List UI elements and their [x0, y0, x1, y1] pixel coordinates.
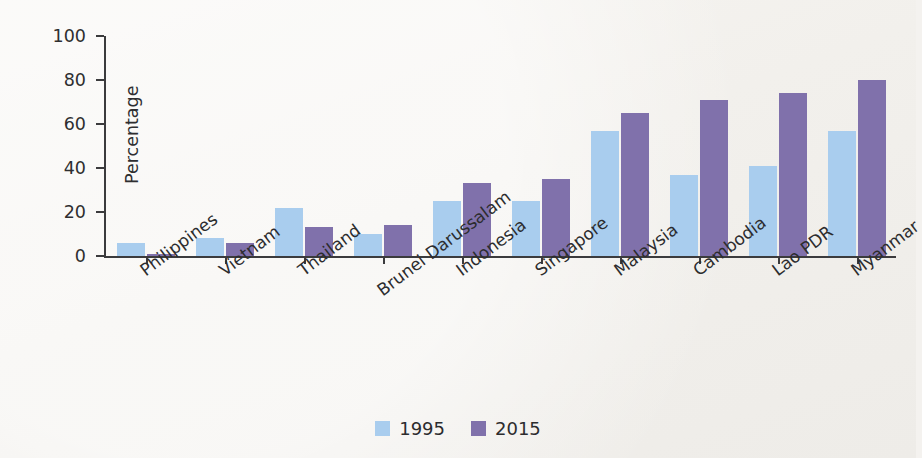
legend-item[interactable]: 1995 — [375, 418, 445, 439]
bar-group — [817, 36, 896, 256]
bar-group — [106, 36, 185, 256]
y-axis-tick-label: 60 — [64, 114, 86, 134]
y-axis-tick-label: 80 — [64, 70, 86, 90]
y-axis-tick — [96, 255, 104, 257]
x-axis-category-labels: PhilippinesVietnamThailandBrunei Darussa… — [104, 258, 916, 378]
y-axis-tick — [96, 123, 104, 125]
bar-2015 — [700, 100, 728, 256]
y-axis-tick-label: 100 — [53, 26, 86, 46]
legend-swatch-1995 — [375, 421, 390, 436]
legend-label: 2015 — [495, 418, 541, 439]
y-axis-tick — [96, 35, 104, 37]
bar-2015 — [858, 80, 886, 256]
legend-label: 1995 — [399, 418, 445, 439]
chart-legend: 19952015 — [0, 418, 916, 439]
y-axis-tick-label: 40 — [64, 158, 86, 178]
bar-1995 — [749, 166, 777, 256]
y-axis-tick — [96, 79, 104, 81]
bar-series-container — [106, 36, 896, 256]
y-axis-tick-label: 0 — [75, 246, 86, 266]
bar-1995 — [117, 243, 145, 256]
bar-2015 — [621, 113, 649, 256]
y-axis-tick — [96, 211, 104, 213]
y-axis-tick-label: 20 — [64, 202, 86, 222]
legend-item[interactable]: 2015 — [471, 418, 541, 439]
bar-2015 — [384, 225, 412, 256]
plot-area: 020406080100 Percentage — [104, 36, 896, 258]
y-axis-tick — [96, 167, 104, 169]
bar-2015 — [779, 93, 807, 256]
bar-group — [264, 36, 343, 256]
legend-swatch-2015 — [471, 421, 486, 436]
bar-1995 — [670, 175, 698, 256]
